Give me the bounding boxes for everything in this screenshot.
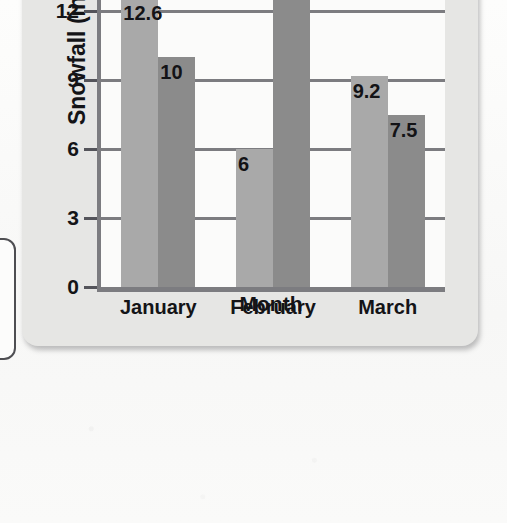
y-axis-tick-label-0: 0 [67,275,79,299]
plot-area: 0369121512.610January615.75February9.27.… [97,0,445,292]
y-axis-tick-12 [84,10,97,13]
y-axis-tick-0 [84,286,97,289]
page-ghost-text-line-2 [250,455,480,469]
bar-march-last-year [351,76,388,287]
x-axis-title: Month [97,292,445,316]
y-axis-tick-label-9: 9 [67,68,79,92]
bar-february-this-year [273,0,310,287]
bar-value-label-january-this-year: 10 [160,61,182,84]
y-axis-tick-label-12: 12 [56,0,79,23]
y-axis-tick-3 [84,217,97,220]
bar-value-label-february-last-year: 6 [238,153,249,176]
y-axis-tick-label-3: 3 [67,206,79,230]
bar-january-this-year [158,57,195,287]
bar-january-last-year [121,0,158,287]
bar-value-label-january-last-year: 12.6 [123,2,162,25]
y-axis-tick-6 [84,148,97,151]
chart-figure: Snowfall (in.) 0369121512.610January615.… [22,0,478,346]
bar-value-label-march-last-year: 9.2 [353,80,381,103]
chart-panel: Snowfall (in.) 0369121512.610January615.… [22,0,478,346]
y-axis-tick-label-6: 6 [67,137,79,161]
page-ghost-text-line-1 [52,419,452,434]
bar-value-label-march-this-year: 7.5 [390,119,418,142]
clipped-rounded-box-left-edge [0,238,16,360]
y-axis-tick-9 [84,79,97,82]
